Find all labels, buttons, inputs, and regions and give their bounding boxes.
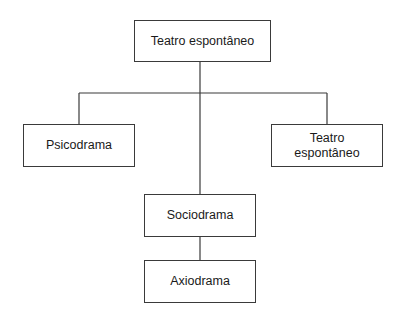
node-label-line1: Teatro xyxy=(310,131,345,146)
node-label: Axiodrama xyxy=(170,274,230,289)
node-label: Psicodrama xyxy=(46,138,112,153)
node-root-teatro-espontaneo: Teatro espontâneo xyxy=(134,20,271,62)
hierarchy-diagram: Teatro espontâneo Psicodrama Teatro espo… xyxy=(0,0,406,320)
node-teatro-espontaneo-child: Teatro espontâneo xyxy=(271,124,383,167)
node-label: Sociodrama xyxy=(167,208,234,223)
node-psicodrama: Psicodrama xyxy=(23,124,135,167)
node-label-line2: espontâneo xyxy=(294,146,359,161)
node-axiodrama: Axiodrama xyxy=(144,260,256,303)
node-label: Teatro espontâneo xyxy=(151,34,255,49)
node-sociodrama: Sociodrama xyxy=(144,194,256,237)
